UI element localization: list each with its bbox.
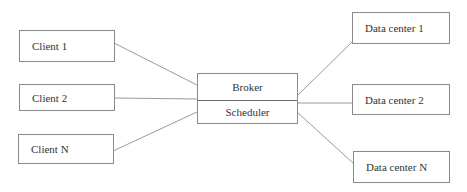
broker-label: Broker bbox=[232, 81, 263, 93]
connector-client1-broker bbox=[114, 43, 197, 85]
scheduler-label: Scheduler bbox=[226, 106, 270, 118]
data-center-1-label: Data center 1 bbox=[353, 22, 424, 34]
data-center-n-box: Data center N bbox=[353, 151, 450, 183]
client-1-box: Client 1 bbox=[19, 30, 115, 62]
client-2-label: Client 2 bbox=[20, 92, 67, 104]
scheduler-section: Scheduler bbox=[198, 100, 297, 123]
broker-scheduler-box: Broker Scheduler bbox=[197, 73, 298, 124]
client-n-label: Client N bbox=[19, 143, 69, 155]
connector-client2-broker bbox=[114, 98, 197, 99]
data-center-2-box: Data center 2 bbox=[352, 84, 450, 115]
client-n-box: Client N bbox=[18, 134, 114, 164]
connector-clientN-broker bbox=[113, 112, 197, 151]
architecture-diagram: Client 1 Client 2 Client N Broker Schedu… bbox=[0, 0, 467, 192]
connector-broker-dc1 bbox=[297, 42, 352, 96]
client-2-box: Client 2 bbox=[19, 84, 115, 111]
connector-broker-dcN bbox=[297, 112, 353, 163]
data-center-1-box: Data center 1 bbox=[352, 12, 450, 44]
data-center-n-label: Data center N bbox=[354, 161, 427, 173]
data-center-2-label: Data center 2 bbox=[353, 94, 424, 106]
client-1-label: Client 1 bbox=[20, 40, 67, 52]
broker-section: Broker bbox=[198, 74, 297, 101]
